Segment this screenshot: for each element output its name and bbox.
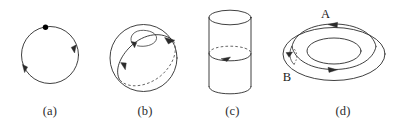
loop-b-label: B	[283, 70, 291, 84]
subfigure-b: (b)	[100, 0, 190, 132]
arrowhead-loop-a-lower	[328, 67, 338, 72]
cylinder-top-ellipse	[209, 10, 251, 25]
sphere-outline	[110, 25, 177, 92]
subfigure-c: (c)	[190, 0, 275, 132]
torus-diagram: A B	[275, 0, 411, 104]
arrowhead-front-arc	[121, 63, 127, 70]
torus-inner-ellipse	[307, 38, 361, 64]
caption-d: (d)	[275, 104, 411, 118]
basepoint-dot	[43, 25, 48, 30]
subfigure-d: A B (d)	[275, 0, 411, 132]
caption-b: (b)	[100, 104, 190, 118]
sphere-diagram	[100, 0, 190, 104]
arrowhead-loop-b	[286, 52, 293, 57]
loop-a-lower-arc	[292, 47, 376, 70]
arrowhead-loop-a-upper	[328, 22, 338, 27]
cylinder-bottom-arc	[209, 87, 251, 94]
subfigure-a: (a)	[0, 0, 100, 132]
arrowhead-right	[71, 45, 76, 53]
great-circle-back	[120, 41, 176, 86]
loop-a-label: A	[321, 7, 330, 21]
cylinder-diagram	[190, 0, 275, 104]
caption-a: (a)	[0, 104, 100, 118]
circle-path	[22, 27, 79, 84]
loop-back-half	[209, 46, 251, 53]
circle-diagram	[0, 0, 100, 104]
great-circle-front	[118, 35, 174, 80]
topology-figure: (a) (b)	[0, 0, 411, 132]
caption-c: (c)	[190, 104, 275, 118]
